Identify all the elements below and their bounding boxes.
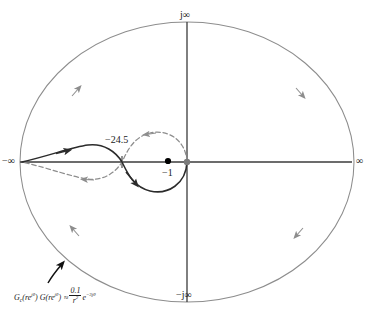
nyquist-plot-figure: j∞ −j∞ −∞ ∞ −24.5 −1 Gc(rejθ)G(rejθ)≈0.1… xyxy=(0,0,372,327)
critical-point-marker xyxy=(165,158,171,164)
formula-g-close: ) xyxy=(58,293,61,302)
formula-denominator-exponent: 2 xyxy=(76,296,78,301)
label-negative-real-infinity: −∞ xyxy=(2,156,15,166)
label-negative-imaginary-infinity: −j∞ xyxy=(176,290,192,300)
formula-g-arg: (re xyxy=(46,293,55,302)
label-critical-point-value: −1 xyxy=(162,168,173,178)
formula-denominator: r2 xyxy=(69,296,81,305)
formula-gc-close: ) xyxy=(35,293,38,302)
formula-exp-power: −3jθ xyxy=(86,292,96,297)
label-positive-imaginary-infinity: j∞ xyxy=(180,10,190,20)
formula-fraction: 0.1r2 xyxy=(69,286,81,305)
nyquist-plot-canvas xyxy=(0,0,372,327)
formula-gc-arg: (re xyxy=(22,293,31,302)
label-gain-crossing-value: −24.5 xyxy=(105,135,128,145)
label-positive-real-infinity: ∞ xyxy=(356,156,363,166)
asymptotic-formula: Gc(rejθ)G(rejθ)≈0.1r2e−3jθ xyxy=(14,286,96,305)
formula-leader-arrow xyxy=(48,264,62,283)
formula-approx-sign: ≈ xyxy=(64,293,68,302)
origin-marker xyxy=(184,159,190,165)
